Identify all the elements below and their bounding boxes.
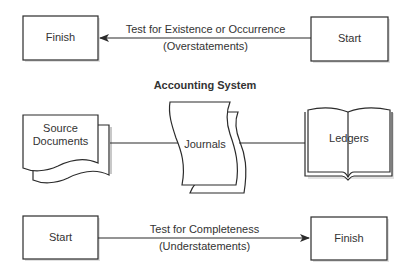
bottom-start-label: Start: [23, 231, 98, 244]
bottom-arrow-label-below: (Understatements): [98, 240, 311, 253]
journals-label: Journals: [176, 138, 234, 151]
top-finish-label: Finish: [23, 31, 98, 44]
top-arrow-label-above: Test for Existence or Occurrence: [100, 23, 311, 36]
accounting-system-title: Accounting System: [140, 79, 270, 92]
source-documents-label-line2: Documents: [23, 135, 98, 148]
bottom-arrow-label-above: Test for Completeness: [98, 223, 311, 236]
top-start-label: Start: [311, 32, 388, 45]
ledgers-label: Ledgers: [308, 132, 390, 145]
bottom-finish-label: Finish: [311, 232, 387, 245]
source-documents-label-line1: Source: [23, 122, 98, 135]
top-arrow-label-below: (Overstatements): [100, 40, 311, 53]
